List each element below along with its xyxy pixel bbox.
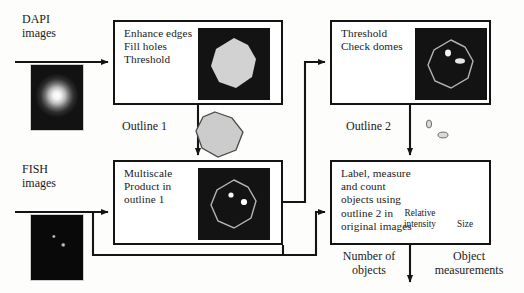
annotation-relative-intensity: Relative intensity [404,208,436,229]
domes-graphic [415,28,487,100]
segmented-nucleus-thumbnail [198,28,270,100]
multiscale-result-thumbnail [198,168,270,240]
annotation-size: Size [457,219,473,230]
edge-label-outline-2: Outline 2 [346,119,391,133]
box-enhance-threshold-text: Enhance edges Fill holes Threshold [124,27,192,67]
outline-2-blobs [426,120,448,138]
multiscale-result-graphic [198,168,270,240]
box-threshold-check-domes: Threshold Check domes [330,20,491,105]
box-threshold-check-domes-text: Threshold Check domes [341,27,403,53]
wire-multiscale-to-threshold [283,62,325,202]
output-object-measurements: Object measurements [417,249,521,277]
box-label-measure-count-text: Label, measure and count objects using o… [341,167,412,233]
box-multiscale-product: Multiscale Product in outline 1 [113,160,283,245]
edge-label-outline-1: Outline 1 [122,119,167,133]
input-label-fish: FISH images [22,162,56,190]
box-multiscale-product-text: Multiscale Product in outline 1 [124,167,172,207]
output-number-of-objects: Number of objects [330,249,408,277]
box-enhance-threshold: Enhance edges Fill holes Threshold [113,20,283,105]
fish-input-thumbnail [30,214,84,281]
segmented-nucleus-graphic [198,28,270,100]
box-label-measure-count: Label, measure and count objects using o… [330,160,491,245]
diagram-canvas: DAPI images FISH images Enhance edges Fi… [0,0,524,293]
dapi-input-thumbnail [30,64,84,131]
outline-1-polygon-graphic [196,112,243,157]
domes-thumbnail [415,28,487,100]
input-label-dapi: DAPI images [22,12,56,40]
